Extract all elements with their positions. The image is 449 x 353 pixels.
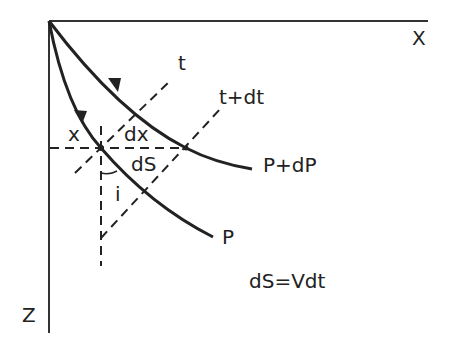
angle-i-arc bbox=[101, 171, 117, 174]
dx-label: dx bbox=[124, 122, 149, 146]
wavefront-t-line bbox=[75, 80, 171, 173]
wavefront-t-label: t bbox=[178, 51, 186, 75]
wavefront-t-dt-line bbox=[101, 107, 222, 238]
x-distance-label: x bbox=[68, 122, 80, 146]
intersection-point bbox=[184, 146, 189, 151]
angle-i-label: i bbox=[115, 182, 121, 206]
direction-arrows bbox=[74, 78, 121, 124]
intersection-point bbox=[98, 145, 104, 151]
x-axis-label: X bbox=[412, 26, 426, 50]
ds-label: dS bbox=[131, 152, 156, 176]
equation-label: dS=Vdt bbox=[249, 269, 326, 293]
ray-p-dp-label: P+dP bbox=[263, 153, 317, 177]
z-axis-label: Z bbox=[22, 303, 36, 327]
axes bbox=[49, 21, 428, 333]
ray-p-label: P bbox=[222, 225, 234, 249]
ray-wavefront-diagram: X Z t t+dt P+dP P x dx dS i dS=Vdt bbox=[0, 0, 449, 353]
wavefront-t-dt-label: t+dt bbox=[219, 85, 264, 109]
